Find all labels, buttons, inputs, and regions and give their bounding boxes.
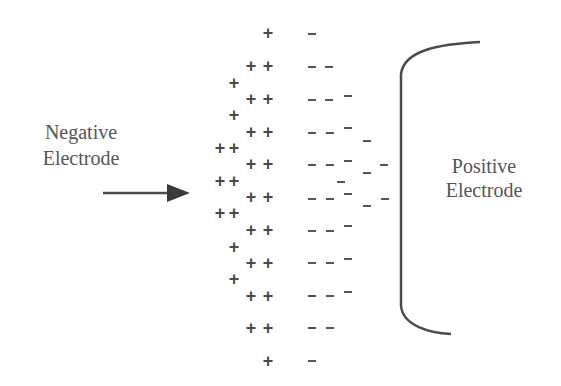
minus-charge-icon xyxy=(337,181,345,183)
minus-charge-icon xyxy=(308,33,316,35)
plus-charge-icon: + xyxy=(246,319,257,337)
plus-charge-icon: + xyxy=(215,139,226,157)
minus-charge-icon xyxy=(344,127,352,129)
minus-charge-icon xyxy=(308,295,316,297)
minus-charge-icon xyxy=(326,198,334,200)
plus-charge-icon: + xyxy=(246,188,257,206)
plus-charge-icon: + xyxy=(263,352,274,370)
minus-charge-icon xyxy=(308,132,316,134)
plus-charge-icon: + xyxy=(246,57,257,75)
minus-charge-icon xyxy=(308,164,316,166)
plus-charge-icon: + xyxy=(229,139,240,157)
minus-charge-icon xyxy=(344,160,352,162)
minus-charge-icon xyxy=(308,230,316,232)
positive-electrode-bracket xyxy=(401,42,480,334)
minus-charge-icon xyxy=(326,262,334,264)
minus-charge-icon xyxy=(326,295,334,297)
plus-charge-icon: + xyxy=(229,172,240,190)
minus-charge-icon xyxy=(325,66,333,68)
plus-charge-icon: + xyxy=(229,204,240,222)
plus-charge-icon: + xyxy=(246,287,257,305)
minus-charge-icon xyxy=(308,66,316,68)
plus-charge-icon: + xyxy=(229,270,240,288)
plus-charge-icon: + xyxy=(246,221,257,239)
plus-charge-icon: + xyxy=(215,204,226,222)
plus-charge-icon: + xyxy=(263,254,274,272)
plus-charge-icon: + xyxy=(229,238,240,256)
plus-charge-icon: + xyxy=(229,74,240,92)
minus-charge-icon xyxy=(326,164,334,166)
plus-charge-icon: + xyxy=(263,221,274,239)
plus-charge-icon: + xyxy=(246,90,257,108)
minus-charge-icon xyxy=(363,172,371,174)
minus-charge-icon xyxy=(326,132,334,134)
minus-charge-icon xyxy=(326,327,334,329)
plus-charge-icon: + xyxy=(263,90,274,108)
plus-charge-icon: + xyxy=(263,24,274,42)
minus-charge-icon xyxy=(380,164,388,166)
plus-charge-icon: + xyxy=(246,254,257,272)
minus-charge-icon xyxy=(308,198,316,200)
minus-charge-icon xyxy=(326,230,334,232)
minus-charge-icon xyxy=(363,205,371,207)
plus-charge-icon: + xyxy=(263,319,274,337)
plus-charge-icon: + xyxy=(263,123,274,141)
minus-charge-icon xyxy=(308,360,316,362)
diagram-shapes xyxy=(0,0,561,386)
minus-charge-icon xyxy=(308,262,316,264)
minus-charge-icon xyxy=(344,258,352,260)
plus-charge-icon: + xyxy=(263,57,274,75)
minus-charge-icon xyxy=(344,193,352,195)
arrow-icon xyxy=(103,184,190,202)
minus-charge-icon xyxy=(344,225,352,227)
electrode-diagram: Negative Electrode Positive Electrode ++… xyxy=(0,0,561,386)
plus-charge-icon: + xyxy=(215,172,226,190)
plus-charge-icon: + xyxy=(229,106,240,124)
minus-charge-icon xyxy=(308,327,316,329)
minus-charge-icon xyxy=(344,291,352,293)
minus-charge-icon xyxy=(308,99,316,101)
minus-charge-icon xyxy=(381,198,389,200)
plus-charge-icon: + xyxy=(246,123,257,141)
plus-charge-icon: + xyxy=(263,155,274,173)
minus-charge-icon xyxy=(325,99,333,101)
minus-charge-icon xyxy=(344,95,352,97)
plus-charge-icon: + xyxy=(263,188,274,206)
plus-charge-icon: + xyxy=(263,287,274,305)
plus-charge-icon: + xyxy=(246,155,257,173)
minus-charge-icon xyxy=(363,140,371,142)
